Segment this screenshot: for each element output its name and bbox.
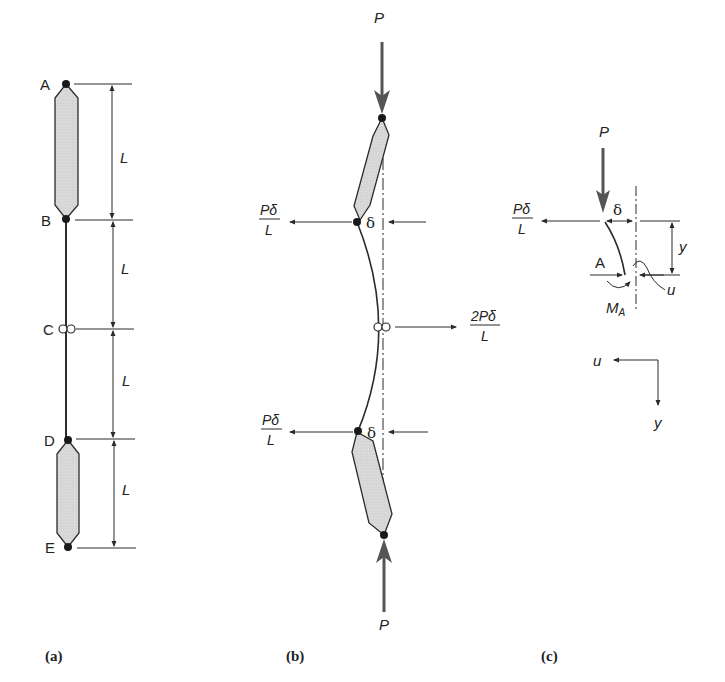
joint-bottom [380,531,388,539]
length-label-de: L [122,481,130,498]
rigid-bar-bottom-deflected [352,432,392,535]
svg-text:L: L [267,432,275,448]
axis-label-u: u [593,352,602,369]
moment-arrow-c [607,281,630,288]
caption-c: (c) [541,648,558,665]
joint-a [62,80,70,88]
length-label-bc: L [121,260,129,277]
node-label-e: E [45,539,55,556]
joint-upper [353,218,361,226]
delta-label-c: δ [613,201,622,219]
moment-label-c: MA [606,299,626,318]
svg-text:L: L [518,221,526,237]
panel-b: P P δ Pδ L [259,9,500,665]
length-label-ab: L [120,149,128,166]
svg-text:Pδ: Pδ [513,201,530,217]
joint-e [64,543,72,551]
length-label-cd: L [122,372,130,389]
node-label-a: A [40,76,50,93]
reaction-label-top: Pδ L [259,202,280,238]
svg-text:L: L [481,328,489,344]
load-label-bottom: P [379,616,389,633]
svg-text:Pδ: Pδ [260,202,277,218]
axis-label-y: y [653,414,663,431]
reaction-label-c: Pδ L [512,201,533,237]
node-label-c: C [43,321,54,338]
y-label-c: y [678,238,688,255]
delta-label-top: δ [366,214,375,232]
caption-a: (a) [45,648,63,665]
svg-text:Pδ: Pδ [262,412,279,428]
reaction-label-bottom: Pδ L [261,412,282,448]
joint-b [62,215,70,223]
caption-b: (b) [286,648,304,665]
dimension-lines [112,86,114,546]
node-label-b: B [41,212,51,229]
reaction-label-mid: 2Pδ L [470,308,500,344]
joint-d [64,436,72,444]
delta-label-bottom: δ [367,424,376,442]
deflected-segment-c [605,222,625,275]
u-label-c: u [667,281,676,298]
spring-mid-icon [374,323,390,331]
rigid-bar-bottom [57,440,79,547]
svg-text:2Pδ: 2Pδ [470,308,496,324]
panel-a: A B C D E L L L L (a) [40,76,136,665]
joint-lower [354,427,362,435]
load-label-c: P [599,123,609,140]
axes-icon [614,360,658,405]
load-label-top: P [374,9,384,26]
axial-label-c: A [595,254,605,271]
panel-c: P Pδ L δ y A u MA [512,123,688,665]
rigid-bar-top-deflected [354,118,389,220]
joint-top [378,114,386,122]
column-buckling-diagram: A B C D E L L L L (a) P [0,0,725,682]
svg-text:L: L [265,222,273,238]
rigid-bar-top [55,84,78,219]
node-label-d: D [44,432,55,449]
